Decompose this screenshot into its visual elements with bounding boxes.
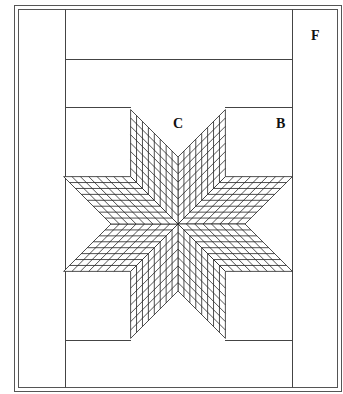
lone-star [64, 110, 293, 339]
label-b: B [276, 117, 285, 131]
label-f: F [311, 29, 320, 43]
quilt-diagram [0, 0, 343, 394]
label-c: C [173, 117, 183, 131]
